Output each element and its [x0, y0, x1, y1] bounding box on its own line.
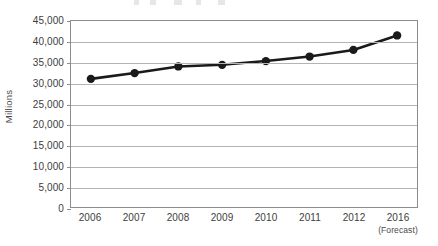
y-axis-tick-label: 40,000: [33, 35, 64, 46]
x-axis-tick-label: 2010: [255, 212, 278, 223]
y-axis-title-text: Millions: [4, 89, 15, 122]
plot-area: [70, 20, 418, 208]
y-axis-tickmark: [67, 167, 71, 168]
y-axis-tickmark: [67, 105, 71, 106]
y-axis-tickmark: [67, 146, 71, 147]
data-point-marker: [130, 69, 138, 77]
gridline: [71, 188, 417, 189]
gridline: [71, 167, 417, 168]
gridline: [71, 125, 417, 126]
x-axis-tick-sublabel: (Forecast): [378, 225, 418, 235]
data-point-marker: [305, 52, 313, 60]
y-axis-tick-label: 35,000: [33, 56, 64, 67]
gridline: [71, 105, 417, 106]
y-axis-tickmark: [67, 125, 71, 126]
y-axis-tick-label: 0: [58, 203, 64, 214]
x-axis-tick-label: 2006: [79, 212, 102, 223]
y-axis-tick-label: 15,000: [33, 140, 64, 151]
y-axis-tick-label: 45,000: [33, 15, 64, 26]
x-axis-tick-label: 2009: [211, 212, 234, 223]
gridline: [71, 42, 417, 43]
cropped-text-artifact: [130, 0, 240, 5]
gridline: [71, 84, 417, 85]
line-chart: Millions 05,00010,00015,00020,00025,0003…: [0, 0, 438, 246]
data-point-marker: [87, 75, 95, 83]
y-axis-tickmark: [67, 188, 71, 189]
x-axis-tick-label: 2016(Forecast): [378, 212, 418, 235]
y-axis-tickmark: [67, 21, 71, 22]
x-axis-tick-labels: 20062007200820092010201120122016(Forecas…: [70, 212, 418, 246]
gridline: [71, 63, 417, 64]
y-axis-tick-label: 10,000: [33, 161, 64, 172]
y-axis-tickmark: [67, 42, 71, 43]
data-point-marker: [262, 57, 270, 65]
y-axis-tick-labels: 05,00010,00015,00020,00025,00030,00035,0…: [18, 20, 68, 208]
y-axis-title: Millions: [0, 0, 18, 212]
data-point-marker: [349, 46, 357, 54]
x-axis-tick-label: 2012: [343, 212, 366, 223]
x-axis-tick-label: 2008: [167, 212, 190, 223]
x-axis-tick-label: 2011: [299, 212, 321, 223]
y-axis-tick-label: 5,000: [38, 182, 64, 193]
x-axis-tick-label: 2007: [123, 212, 146, 223]
gridline: [71, 146, 417, 147]
y-axis-tickmark: [67, 63, 71, 64]
y-axis-tick-label: 20,000: [33, 119, 64, 130]
data-series: [71, 21, 417, 207]
y-axis-tick-label: 25,000: [33, 98, 64, 109]
y-axis-tick-label: 30,000: [33, 77, 64, 88]
data-point-marker: [393, 31, 401, 39]
y-axis-tickmark: [67, 209, 71, 210]
y-axis-tickmark: [67, 84, 71, 85]
